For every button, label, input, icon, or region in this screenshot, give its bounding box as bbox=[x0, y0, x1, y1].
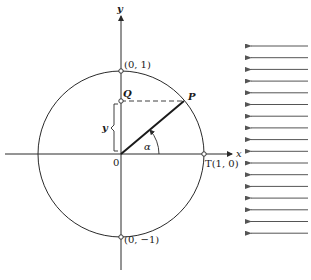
label-p: P bbox=[187, 91, 196, 102]
point-top bbox=[119, 69, 123, 73]
unit-circle-diagram: y x 0 (0, 1) (0, −1) T(1, 0) Q P α y bbox=[0, 0, 311, 280]
brace-icon bbox=[111, 104, 118, 151]
y-axis-label: y bbox=[116, 3, 124, 14]
point-q bbox=[119, 99, 123, 103]
label-top-point: (0, 1) bbox=[124, 59, 151, 70]
radius-op bbox=[121, 101, 184, 154]
label-q: Q bbox=[123, 88, 132, 99]
label-bottom-point: (0, −1) bbox=[124, 234, 159, 245]
point-bottom bbox=[119, 235, 123, 239]
point-t bbox=[202, 152, 206, 156]
label-alpha: α bbox=[144, 141, 151, 152]
angle-arc-icon bbox=[150, 130, 159, 154]
incoming-arrows bbox=[251, 46, 308, 233]
label-brace-y: y bbox=[101, 122, 109, 133]
origin-label: 0 bbox=[113, 157, 119, 168]
label-t-point: T(1, 0) bbox=[205, 158, 239, 169]
